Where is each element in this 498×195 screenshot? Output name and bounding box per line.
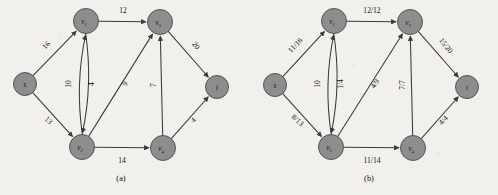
edge-b-v2-to-v4 <box>343 147 399 148</box>
edge-a-s-to-v2 <box>33 93 73 137</box>
node-a-v2[interactable]: v2 <box>70 135 95 160</box>
node-label: s <box>24 80 27 89</box>
edge-labels-layer: 161312104972041411/168/1312/12101/44/97/… <box>40 6 455 165</box>
edge-label-b-v2-to-v4: 11/14 <box>363 156 380 165</box>
node-b-v4[interactable]: v4 <box>401 136 426 161</box>
edge-label-b-v2-to-v1: 1/4 <box>336 79 345 89</box>
edge-b-s-to-v1 <box>283 31 325 76</box>
edge-label-b-v3-to-t: 15/20 <box>437 36 455 55</box>
edge-label-b-v1-to-v2: 10 <box>313 80 322 88</box>
edge-a-v3-to-t <box>168 31 208 77</box>
node-a-v4[interactable]: v4 <box>151 136 176 161</box>
edge-label-a-v3-to-t: 20 <box>190 40 202 52</box>
edge-label-a-v1-to-v2: 10 <box>64 80 73 88</box>
node-b-t[interactable]: t <box>456 76 479 99</box>
panel-caption-a: (a) <box>116 174 126 183</box>
edge-label-b-v1-to-v3: 12/12 <box>363 6 381 15</box>
node-a-s[interactable]: s <box>14 73 37 96</box>
edge-label-b-v2-to-v3: 4/9 <box>368 77 381 90</box>
edge-label-a-v1-to-v3: 12 <box>119 6 127 15</box>
edge-a-v2-to-v3 <box>89 34 153 137</box>
node-a-v1[interactable]: v1 <box>74 9 99 34</box>
edge-label-a-v2-to-v1: 4 <box>87 82 96 86</box>
edge-a-v1-to-v3 <box>98 21 146 22</box>
node-b-v1[interactable]: v1 <box>322 9 347 34</box>
node-b-v2[interactable]: v2 <box>319 135 344 160</box>
edge-label-b-s-to-v1: 11/16 <box>286 36 304 55</box>
edge-label-a-s-to-v1: 16 <box>40 39 52 51</box>
edge-b-v1-to-v3 <box>346 21 396 22</box>
edge-a-v2-to-v4 <box>94 147 149 148</box>
captions-layer: (a)(b) <box>116 174 374 183</box>
edge-b-v3-to-t <box>418 31 458 77</box>
edge-label-b-v4-to-v3: 7/7 <box>398 80 407 90</box>
edge-label-a-v4-to-t: 4 <box>189 116 198 125</box>
edge-label-a-v2-to-v4: 14 <box>118 156 126 165</box>
edge-label-a-v2-to-v3: 9 <box>120 79 130 87</box>
edge-label-b-s-to-v2: 8/13 <box>290 112 306 128</box>
edge-a-v4-to-v3 <box>160 36 162 136</box>
edge-a-s-to-v1 <box>33 31 76 76</box>
node-b-v3[interactable]: v3 <box>398 10 423 35</box>
edge-b-v2-to-v1 <box>328 35 334 135</box>
edges-layer <box>33 21 459 148</box>
panel-caption-b: (b) <box>364 174 374 183</box>
node-a-t[interactable]: t <box>206 76 229 99</box>
node-a-v3[interactable]: v3 <box>148 10 173 35</box>
edge-label-a-v4-to-v3: 7 <box>149 83 158 87</box>
nodes-layer: sv1v2v3v4tsv1v2v3v4t <box>14 9 479 161</box>
edge-label-a-s-to-v2: 13 <box>43 114 55 126</box>
edge-b-v4-to-v3 <box>410 36 412 136</box>
node-label: s <box>274 81 277 90</box>
node-b-s[interactable]: s <box>264 74 287 97</box>
edge-b-s-to-v2 <box>283 94 322 137</box>
flow-network-figure: sv1v2v3v4tsv1v2v3v4t 161312104972041411/… <box>0 0 498 195</box>
edge-label-b-v4-to-t: 4/4 <box>437 113 450 126</box>
